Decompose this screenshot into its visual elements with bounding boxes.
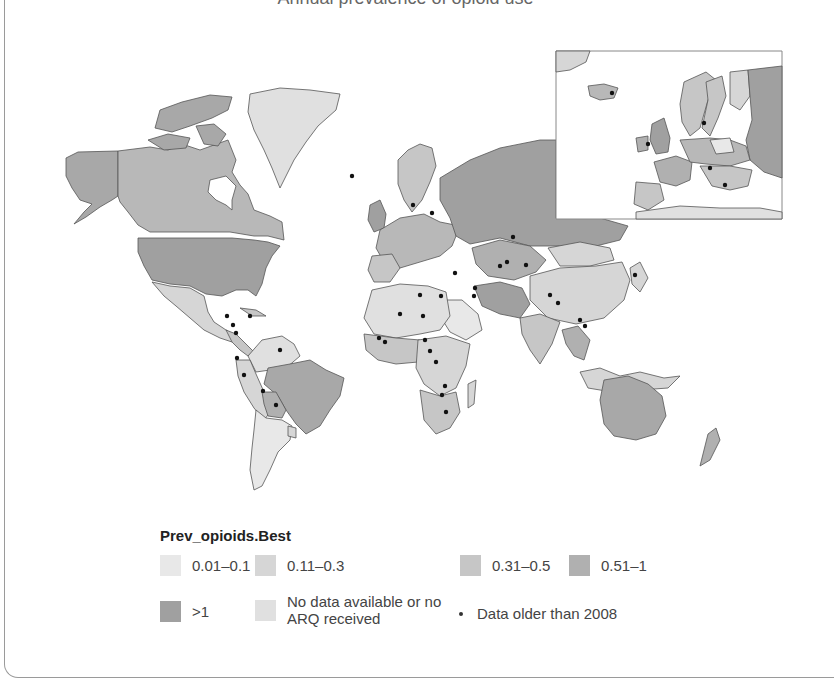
legend-label: 0.11–0.3 (287, 557, 344, 574)
legend-label: >1 (192, 603, 209, 620)
dot-icon (459, 612, 463, 616)
inset-russia[interactable] (746, 66, 782, 178)
region-korea-japan[interactable] (630, 262, 648, 292)
world-map (0, 0, 811, 520)
map-legend: Prev_opioids.Best 0.01–0.1 0.11–0.3 0.31… (160, 527, 780, 647)
legend-swatch (460, 555, 481, 576)
region-southeast-asia[interactable] (562, 326, 590, 360)
region-central-america[interactable] (226, 330, 254, 356)
legend-item-4: >1 (160, 601, 209, 622)
legend-item-marker: Data older than 2008 (450, 605, 617, 622)
region-uruguay[interactable] (288, 426, 296, 438)
region-new-zealand[interactable] (700, 428, 720, 466)
region-scandinavia[interactable] (398, 144, 436, 212)
legend-swatch (160, 555, 181, 576)
region-china[interactable] (530, 262, 630, 324)
legend-item-2: 0.31–0.5 (460, 555, 550, 576)
legend-swatch (255, 555, 276, 576)
inset-france[interactable] (654, 156, 692, 186)
region-india[interactable] (520, 314, 560, 364)
legend-item-1: 0.11–0.3 (255, 555, 344, 576)
legend-swatch (569, 555, 590, 576)
legend-label: 0.01–0.1 (192, 557, 250, 574)
region-arctic-islands[interactable] (148, 95, 232, 150)
region-central-africa[interactable] (416, 336, 470, 396)
legend-label: No data available or no ARQ received (287, 593, 445, 627)
legend-label: 0.51–1 (601, 557, 647, 574)
legend-item-3: 0.51–1 (569, 555, 647, 576)
region-canada[interactable] (118, 140, 284, 240)
region-iran-afghanistan[interactable] (474, 282, 530, 318)
region-north-africa[interactable] (364, 284, 450, 338)
legend-title: Prev_opioids.Best (160, 527, 291, 544)
region-cuba[interactable] (240, 308, 266, 316)
region-greenland[interactable] (248, 88, 340, 188)
region-argentina-chile[interactable] (250, 410, 292, 490)
region-uk[interactable] (368, 200, 386, 232)
legend-label: 0.31–0.5 (492, 557, 550, 574)
legend-label: Data older than 2008 (477, 605, 617, 622)
region-alaska[interactable] (66, 151, 118, 224)
legend-item-5: No data available or no ARQ received (255, 593, 445, 627)
legend-item-0: 0.01–0.1 (160, 555, 250, 576)
europe-inset (556, 51, 782, 219)
legend-swatch (160, 601, 181, 622)
legend-swatch (255, 600, 276, 621)
region-madagascar[interactable] (468, 380, 476, 408)
region-southern-africa[interactable] (420, 390, 460, 434)
